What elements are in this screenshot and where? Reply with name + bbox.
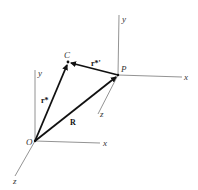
vector-R (35, 77, 116, 141)
p-x-axis (118, 75, 182, 77)
vector-r-star-prime-label: r*' (91, 59, 101, 68)
p-y-label: y (121, 14, 126, 24)
frame-o-axes: y x z (12, 68, 107, 186)
point-o-label: O (26, 137, 33, 147)
point-o-dot (34, 140, 36, 142)
p-x-label: x (183, 72, 188, 82)
vector-r-star-label: r* (41, 96, 49, 105)
point-c-dot (67, 61, 70, 64)
vector-R-label: R (70, 118, 76, 127)
o-x-axis (35, 141, 100, 143)
o-y-label: y (37, 68, 42, 78)
p-z-label: z (99, 109, 104, 119)
o-x-label: x (102, 138, 107, 148)
point-p-label: P (120, 64, 127, 74)
vector-diagram: y x z y x z O C P r* R r*' (0, 0, 198, 190)
point-c-label: C (64, 50, 71, 60)
point-p-dot (117, 74, 119, 76)
p-y-axis (118, 15, 119, 75)
o-z-label: z (12, 176, 17, 186)
frame-p-axes: y x z (98, 14, 188, 119)
